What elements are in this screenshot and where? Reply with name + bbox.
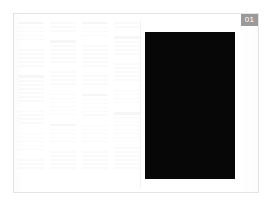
text-heading-line: [114, 112, 140, 114]
text-body-line: [18, 92, 44, 94]
text-body-line: [18, 163, 44, 165]
text-body-line: [114, 94, 140, 96]
text-spacer: [50, 145, 76, 149]
text-body-line: [114, 163, 140, 165]
text-heading-line: [50, 124, 76, 126]
text-body-line: [82, 49, 108, 51]
text-body-line: [50, 102, 76, 104]
screenshot-viewport: 01: [0, 0, 276, 214]
text-body-line: [82, 75, 108, 77]
text-body-line: [114, 147, 140, 149]
text-body-line: [114, 98, 140, 100]
text-heading-line: [114, 36, 140, 38]
text-spacer: [82, 145, 108, 149]
column-divider: [140, 20, 141, 188]
text-body-line: [114, 53, 140, 55]
text-body-line: [82, 155, 108, 157]
text-heading-line: [82, 22, 108, 24]
text-body-line: [114, 117, 140, 119]
text-body-line: [82, 79, 108, 81]
text-body-line: [18, 57, 44, 59]
text-body-line: [50, 110, 76, 112]
text-body-line: [18, 49, 44, 51]
text-body-line: [50, 26, 76, 28]
text-body-line: [82, 133, 108, 135]
text-body-line: [82, 103, 108, 105]
text-body-line: [114, 75, 140, 77]
text-body-line: [18, 149, 44, 151]
text-body-line: [82, 57, 108, 59]
text-body-line: [114, 90, 140, 92]
text-body-line: [82, 159, 108, 161]
text-body-line: [82, 27, 108, 29]
text-body-line: [114, 79, 140, 81]
text-body-line: [114, 45, 140, 47]
text-body-line: [82, 125, 108, 127]
text-body-line: [114, 137, 140, 139]
text-body-line: [18, 118, 44, 120]
text-body-line: [114, 159, 140, 161]
text-body-line: [114, 129, 140, 131]
text-body-line: [114, 151, 140, 153]
document-page[interactable]: 01: [13, 13, 259, 193]
text-body-line: [82, 111, 108, 113]
text-body-line: [18, 159, 44, 161]
text-body-line: [18, 141, 44, 143]
text-body-line: [50, 129, 76, 131]
text-spacer: [18, 104, 44, 108]
text-spacer: [50, 34, 76, 38]
text-body-line: [50, 155, 76, 157]
text-body-line: [82, 31, 108, 33]
black-image-placeholder[interactable]: [145, 32, 235, 179]
text-column-4: [114, 19, 140, 189]
text-body-line: [18, 111, 44, 113]
text-column-3: [82, 19, 108, 189]
text-body-line: [82, 35, 108, 37]
text-body-line: [50, 137, 76, 139]
text-body-line: [82, 114, 108, 116]
text-body-line: [82, 45, 108, 47]
text-body-line: [50, 163, 76, 165]
text-body-line: [114, 67, 140, 69]
text-body-line: [82, 151, 108, 153]
text-body-line: [18, 84, 44, 86]
text-body-line: [50, 53, 76, 55]
text-body-line: [114, 121, 140, 123]
text-heading-line: [18, 75, 44, 77]
text-body-line: [82, 137, 108, 139]
text-body-line: [50, 22, 76, 24]
text-body-line: [18, 122, 44, 124]
text-body-line: [18, 80, 44, 82]
text-body-line: [50, 30, 76, 32]
text-body-line: [50, 141, 76, 143]
text-body-line: [50, 151, 76, 153]
text-spacer: [114, 30, 140, 34]
text-spacer: [82, 39, 108, 43]
text-body-line: [18, 167, 44, 169]
text-spacer: [18, 43, 44, 47]
text-body-line: [82, 65, 108, 67]
text-body-line: [114, 125, 140, 127]
text-spacer: [18, 126, 44, 130]
text-spacer: [50, 65, 76, 69]
text-body-line: [50, 167, 76, 169]
text-body-line: [18, 61, 44, 63]
text-body-line: [18, 53, 44, 55]
text-body-line: [114, 63, 140, 65]
text-body-line: [18, 96, 44, 98]
text-body-line: [114, 102, 140, 104]
text-body-line: [50, 61, 76, 63]
text-spacer: [82, 69, 108, 73]
text-body-line: [18, 145, 44, 147]
text-body-line: [50, 83, 76, 85]
text-body-line: [82, 107, 108, 109]
text-body-line: [82, 99, 108, 101]
text-spacer: [114, 57, 140, 61]
text-spacer: [82, 118, 108, 122]
text-body-line: [114, 22, 140, 24]
text-body-line: [50, 114, 76, 116]
text-body-line: [82, 163, 108, 165]
text-body-line: [50, 57, 76, 59]
text-body-line: [82, 129, 108, 131]
text-body-line: [114, 71, 140, 73]
